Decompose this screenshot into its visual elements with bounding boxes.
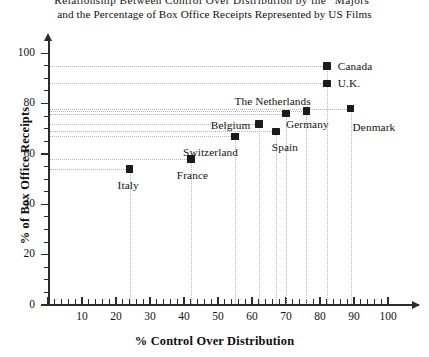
x-tick-major (387, 297, 388, 306)
data-point-marker (347, 105, 355, 113)
y-tick-minor (44, 292, 50, 293)
x-tick-minor (68, 299, 69, 306)
chart-title-line-1: Relationship Between Control Over Distri… (0, 0, 429, 8)
x-tick-label: 100 (371, 310, 405, 322)
guide-line-horizontal (50, 131, 276, 132)
x-tick-minor (88, 299, 89, 306)
y-tick-minor (44, 279, 50, 280)
x-tick-major (47, 297, 48, 306)
x-tick-minor (143, 299, 144, 306)
x-tick-label: 50 (201, 310, 235, 322)
x-tick-label: 30 (133, 310, 167, 322)
data-point-label: Denmark (353, 121, 396, 133)
x-tick-major (353, 297, 354, 306)
data-point-marker (282, 110, 290, 118)
x-tick-minor (204, 299, 205, 306)
guide-line-horizontal (50, 111, 306, 112)
x-tick-label: 70 (269, 310, 303, 322)
x-tick-minor (136, 299, 137, 306)
x-tick-minor (245, 299, 246, 306)
x-tick-minor (238, 299, 239, 306)
data-point-marker (303, 107, 311, 115)
y-tick-minor (44, 141, 50, 142)
data-point-label: France (177, 169, 208, 181)
data-point-marker (272, 128, 280, 136)
x-axis-title: % Control Over Distribution (0, 334, 429, 349)
x-tick-minor (292, 299, 293, 306)
x-tick-minor (265, 299, 266, 306)
x-tick-minor (177, 299, 178, 306)
y-tick-minor (44, 267, 50, 268)
x-tick-minor (272, 299, 273, 306)
data-point-label: Spain (272, 141, 298, 153)
guide-line-vertical (351, 109, 352, 305)
guide-line-horizontal (50, 169, 130, 170)
y-tick-major (41, 254, 50, 255)
x-tick-minor (95, 299, 96, 306)
data-point-marker (323, 80, 331, 88)
y-tick-minor (44, 229, 50, 230)
y-tick-minor (44, 78, 50, 79)
data-point-marker (231, 133, 239, 141)
x-tick-major (149, 297, 150, 306)
guide-line-vertical (259, 124, 260, 304)
y-tick-major (41, 53, 50, 54)
guide-line-vertical (276, 131, 277, 304)
y-tick-major (41, 153, 50, 154)
guide-line-vertical (235, 136, 236, 304)
y-tick-minor (44, 166, 50, 167)
x-tick-minor (170, 299, 171, 306)
y-axis-title: % of Box Office Receipts (18, 51, 33, 301)
x-tick-label: 80 (303, 310, 337, 322)
guide-line-vertical (327, 66, 328, 304)
guide-line-horizontal (50, 159, 191, 160)
y-tick-major (41, 103, 50, 104)
x-tick-major (115, 297, 116, 306)
data-point-marker (255, 120, 263, 128)
x-tick-minor (333, 299, 334, 306)
data-point-label: Italy (118, 179, 139, 191)
guide-line-horizontal (50, 83, 327, 84)
x-tick-minor (156, 299, 157, 306)
x-tick-label: 60 (235, 310, 269, 322)
x-tick-major (81, 297, 82, 306)
x-tick-minor (313, 299, 314, 306)
x-tick-minor (299, 299, 300, 306)
x-tick-minor (360, 299, 361, 306)
data-point-label: Germany (286, 118, 329, 130)
x-tick-minor (381, 299, 382, 306)
y-tick-minor (44, 116, 50, 117)
guide-line-vertical (306, 111, 307, 304)
data-point-label: Canada (338, 60, 372, 72)
scatter-chart: Relationship Between Control Over Distri… (0, 0, 429, 357)
guide-line-horizontal (50, 66, 327, 67)
x-tick-minor (102, 299, 103, 306)
x-tick-label: 40 (167, 310, 201, 322)
y-tick-minor (44, 242, 50, 243)
x-tick-label: 10 (65, 310, 99, 322)
x-tick-label: 90 (337, 310, 371, 322)
y-axis-arrow-icon (44, 33, 52, 41)
x-tick-minor (367, 299, 368, 306)
data-point-label: U.K. (338, 77, 360, 89)
x-tick-minor (54, 299, 55, 306)
y-tick-minor (44, 179, 50, 180)
x-tick-minor (347, 299, 348, 306)
x-tick-label: 20 (99, 310, 133, 322)
x-tick-minor (109, 299, 110, 306)
x-tick-major (217, 297, 218, 306)
x-tick-major (319, 297, 320, 306)
x-tick-major (251, 297, 252, 306)
x-tick-minor (163, 299, 164, 306)
y-tick-minor (44, 191, 50, 192)
x-tick-minor (122, 299, 123, 306)
y-tick-minor (44, 216, 50, 217)
x-tick-minor (75, 299, 76, 306)
x-tick-minor (231, 299, 232, 306)
guide-line-horizontal (50, 114, 286, 115)
guide-line-horizontal (50, 136, 235, 137)
y-tick-minor (44, 90, 50, 91)
chart-title-line-2: and the Percentage of Box Office Receipt… (0, 8, 429, 22)
x-tick-minor (211, 299, 212, 306)
data-point-label: Belgium (211, 119, 251, 131)
